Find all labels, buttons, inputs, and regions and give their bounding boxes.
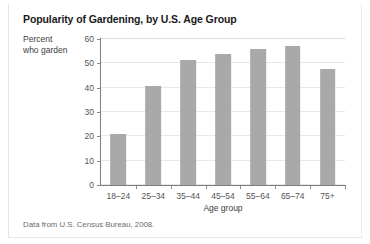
- chart-title: Popularity of Gardening, by U.S. Age Gro…: [23, 13, 237, 25]
- source-caption: Data from U.S. Census Bureau, 2008.: [23, 220, 154, 229]
- bar: [180, 60, 196, 185]
- y-tick-label-60: 60: [85, 34, 94, 44]
- bar: [285, 46, 301, 185]
- bar-group: 55–64: [240, 39, 275, 185]
- x-tick-label: 45–54: [211, 191, 235, 201]
- bar-group: 35–44: [171, 39, 206, 185]
- x-tick-label: 25–34: [141, 191, 165, 201]
- y-tick-label-30: 30: [85, 107, 94, 117]
- y-axis-label-line-1: Percent: [23, 34, 67, 45]
- y-tick-label-20: 20: [85, 131, 94, 141]
- x-tick-mark: [345, 185, 346, 189]
- x-tick-label: 55–64: [246, 191, 270, 201]
- x-axis-label: Age group: [101, 203, 345, 213]
- y-tick-label-0: 0: [89, 180, 94, 190]
- bar-group: 75+: [310, 39, 345, 185]
- y-tick-label-40: 40: [85, 83, 94, 93]
- bar-group: 18–24: [101, 39, 136, 185]
- bar: [250, 49, 266, 185]
- bar-group: 25–34: [136, 39, 171, 185]
- x-tick-label: 18–24: [107, 191, 131, 201]
- bar-group: 65–74: [275, 39, 310, 185]
- bar-group: 45–54: [206, 39, 241, 185]
- bar: [215, 54, 231, 185]
- y-axis-label-line-2: who garden: [23, 45, 67, 56]
- x-axis-line: [100, 185, 345, 186]
- y-axis-label: Percent who garden: [23, 34, 67, 56]
- y-axis-line: [100, 38, 101, 186]
- plot-area: 6050403020100 18–2425–3435–4445–5455–646…: [101, 39, 345, 185]
- bar: [111, 134, 127, 185]
- y-tick-label-50: 50: [85, 58, 94, 68]
- chart-figure: Popularity of Gardening, by U.S. Age Gro…: [8, 4, 362, 238]
- bar: [145, 86, 161, 185]
- x-tick-label: 75+: [320, 191, 334, 201]
- x-tick-label: 65–74: [281, 191, 305, 201]
- bar: [320, 69, 336, 185]
- y-tick-label-10: 10: [85, 156, 94, 166]
- x-tick-label: 35–44: [176, 191, 200, 201]
